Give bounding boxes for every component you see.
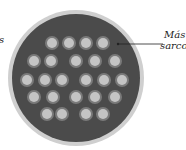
myofibril-dot (57, 109, 67, 119)
muscle-fiber-diagram (0, 0, 186, 150)
myofibril-dot (22, 75, 32, 85)
left-label-partial: s (0, 34, 4, 45)
myofibril-dot (71, 92, 81, 102)
myofibril-dot (46, 56, 56, 66)
myofibril-dot (48, 92, 58, 102)
myofibril-dot (81, 38, 91, 48)
label-pointer-dot (117, 43, 119, 45)
right-label-line2: sarco (160, 40, 186, 51)
myofibril-dot (81, 75, 91, 85)
myofibril-dot (57, 75, 67, 85)
myofibril-dot (47, 38, 57, 48)
myofibril-dot (29, 92, 39, 102)
myofibril-dot (110, 56, 120, 66)
myofibril-dot (90, 56, 100, 66)
myofibril-dot (64, 38, 74, 48)
myofibril-dot (110, 92, 120, 102)
myofibril-dot (98, 109, 108, 119)
myofibril-dot (81, 109, 91, 119)
myofibril-dot (42, 109, 52, 119)
myofibril-dot (98, 38, 108, 48)
myofibril-dot (71, 56, 81, 66)
right-label-line1: Más (164, 29, 185, 40)
myofibril-dot (117, 75, 127, 85)
myofibril-dot (29, 56, 39, 66)
myofibril-dot (90, 92, 100, 102)
myofibril-dot (99, 75, 109, 85)
myofibril-dot (40, 75, 50, 85)
